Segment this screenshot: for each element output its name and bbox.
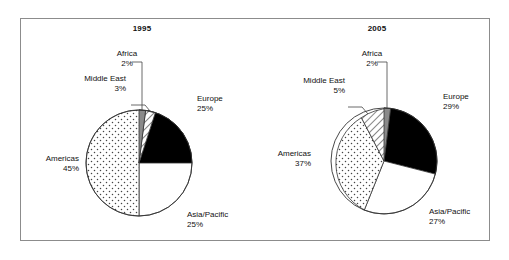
leader-line-middle-east <box>348 107 368 114</box>
label-europe: Europe 25% <box>197 94 257 114</box>
pie-panel-2005: 2005 <box>263 19 491 240</box>
figure-root: 1995 <box>0 0 509 260</box>
leader-line-africa <box>132 62 142 110</box>
pie-slice-asia-pacific <box>139 163 192 216</box>
label-asia-pacific: Asia/Pacific 27% <box>429 207 499 227</box>
label-africa: Africa 2% <box>97 49 157 69</box>
label-asia-pacific: Asia/Pacific 25% <box>187 210 257 230</box>
chart-frame: 1995 <box>20 18 490 241</box>
label-americas: Americas 37% <box>251 149 311 169</box>
label-middle-east: Middle East 3% <box>41 74 126 94</box>
label-africa: Africa 2% <box>342 49 402 69</box>
label-americas: Americas 45% <box>19 154 79 174</box>
label-europe: Europe 29% <box>443 92 503 112</box>
pie-panel-1995: 1995 <box>21 19 263 240</box>
label-middle-east: Middle East 5% <box>259 76 345 96</box>
